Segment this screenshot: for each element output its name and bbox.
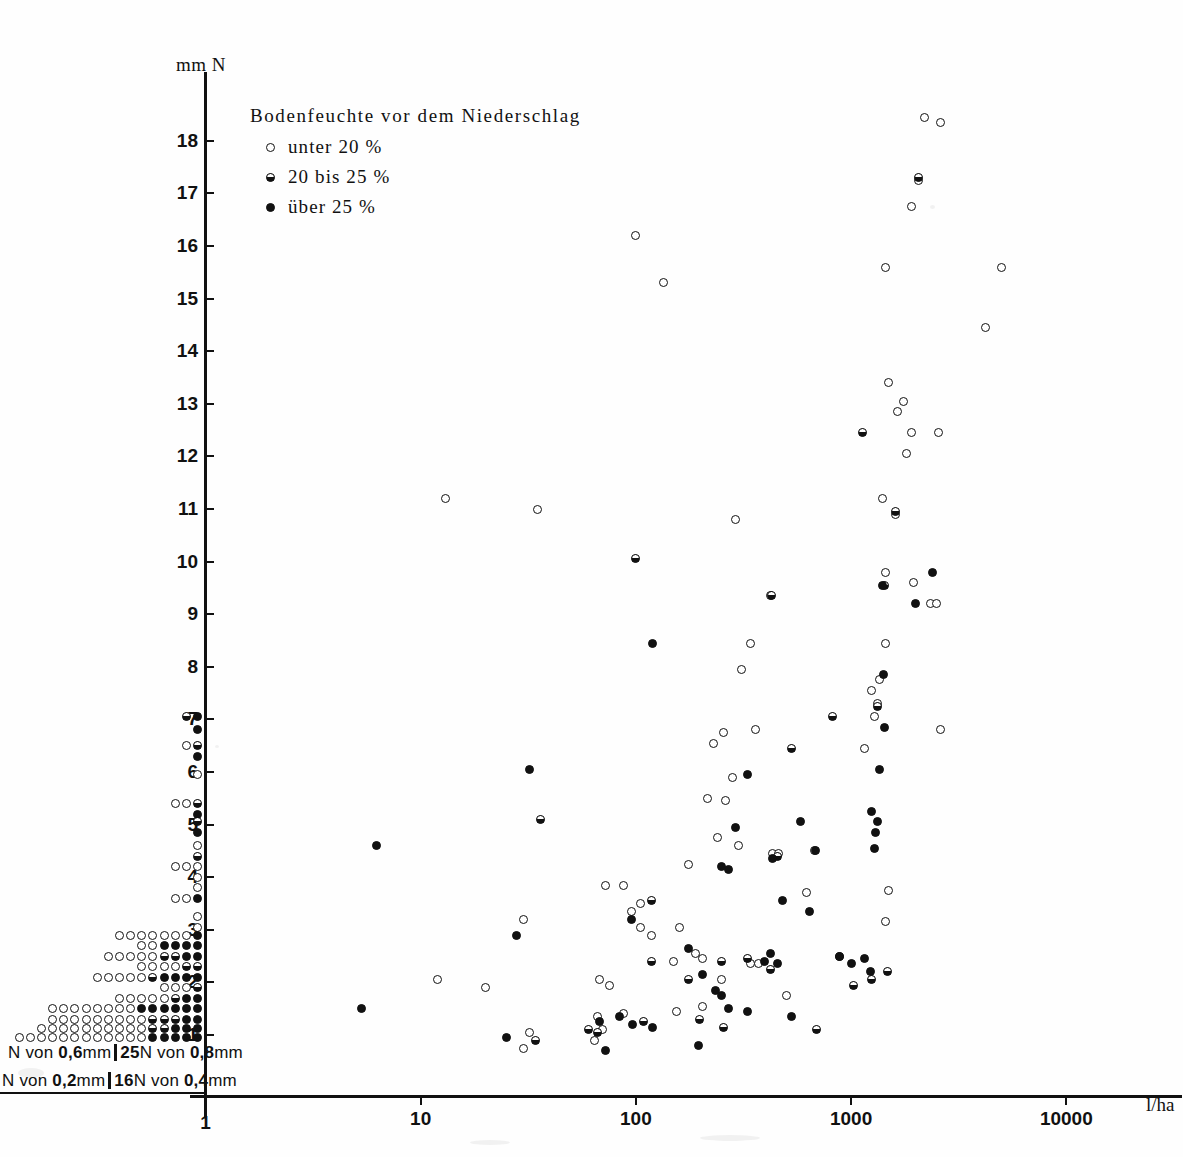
stack-marker [148,994,157,1003]
stack-marker [137,952,146,961]
stack-marker [93,973,102,982]
data-point [936,725,945,734]
data-point [601,1046,610,1055]
y-tick-11 [205,508,214,510]
data-point [481,983,490,992]
data-point [595,975,604,984]
stack-marker [70,1024,79,1033]
data-point [719,1023,728,1032]
scan-artifact [700,1135,760,1141]
stack-marker [160,962,169,971]
data-point [698,1002,707,1011]
stack-marker [171,1033,180,1042]
data-point [536,815,545,824]
legend-entry-2: über 25 % [266,196,581,218]
stack-marker [193,1033,202,1042]
stack-marker [193,817,202,826]
data-point [867,807,876,816]
data-point [709,739,718,748]
legend-title: Bodenfeuchte vor dem Niederschlag [250,105,581,127]
stack-marker [171,894,180,903]
stack-marker [115,1015,124,1024]
data-point [878,581,887,590]
x-tick-10 [420,1096,422,1105]
data-point [768,854,777,863]
stack-marker [171,931,180,940]
stack-marker [93,1015,102,1024]
annotation-part: 0,2 [52,1071,76,1090]
stack-marker [126,952,135,961]
stack-marker [182,941,191,950]
stack-marker [115,1033,124,1042]
annotation-part: 0,8 [190,1043,214,1062]
stack-marker [115,973,124,982]
data-point [695,1015,704,1024]
data-point [724,1004,733,1013]
legend-entry-1: 20 bis 25 % [266,166,581,188]
legend-marker-half-icon [266,173,288,182]
stack-marker [82,1004,91,1013]
stack-marker [171,973,180,982]
stack-marker [193,883,202,892]
data-point [766,949,775,958]
stack-marker [104,1024,113,1033]
stack-marker [126,1004,135,1013]
annotation-upper: N von 0,6mm25N von 0,8mm [8,1043,243,1063]
stack-marker [160,1033,169,1042]
stack-marker [126,1015,135,1024]
legend: Bodenfeuchte vor dem Niederschlag unter … [250,105,581,226]
stack-marker [148,1004,157,1013]
data-point [902,449,911,458]
data-point [684,944,693,953]
data-point [590,1036,599,1045]
data-point [502,1033,511,1042]
stack-marker [82,1033,91,1042]
data-point [615,1012,624,1021]
stack-marker [182,983,191,992]
y-tick-label-8: 8 [187,657,198,676]
data-point [631,554,640,563]
x-tick-1 [205,1096,207,1105]
data-point [812,1025,821,1034]
y-tick-10 [205,561,214,563]
data-point [875,765,884,774]
data-point [891,507,900,516]
stack-marker [182,894,191,903]
stack-marker [171,1024,180,1033]
data-point [914,173,923,182]
data-point [659,278,668,287]
y-tick-label-10: 10 [177,552,198,571]
y-tick-15 [205,298,214,300]
stack-marker [59,1024,68,1033]
annotation-part: mm [77,1071,106,1090]
x-tick-label-1: 1 [166,1112,246,1134]
data-point [883,967,892,976]
stack-marker [171,1004,180,1013]
data-point [672,1007,681,1016]
stack-marker [160,931,169,940]
stack-marker [148,931,157,940]
stack-marker [137,962,146,971]
data-point [911,599,920,608]
y-tick-8 [205,666,214,668]
annotation-part: N von [140,1043,190,1062]
data-point [873,817,882,826]
data-point [907,428,916,437]
data-point [893,407,902,416]
legend-marker-solid-icon [266,203,288,212]
stack-marker [115,1004,124,1013]
stack-marker [160,994,169,1003]
legend-entry-0: unter 20 % [266,136,581,158]
x-tick-label-1000: 1000 [811,1108,891,1130]
stack-marker [137,941,146,950]
data-point [593,1028,602,1037]
stack-marker [82,1015,91,1024]
marker-open-icon [266,143,275,152]
y-tick-label-9: 9 [187,604,198,623]
stack-marker [137,1024,146,1033]
data-point [760,957,769,966]
stack-marker [70,1004,79,1013]
y-tick-label-14: 14 [177,341,198,360]
data-point [669,957,678,966]
stack-marker [193,1004,202,1013]
